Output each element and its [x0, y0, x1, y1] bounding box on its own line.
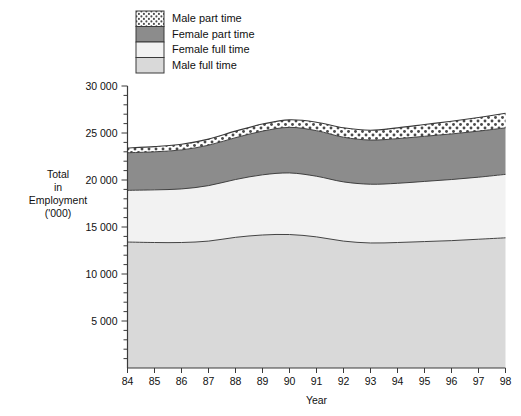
- x-tick-label: 92: [338, 375, 350, 387]
- x-tick-label: 88: [230, 375, 242, 387]
- legend-swatch-female-part-time: [136, 27, 164, 43]
- x-tick-label: 98: [500, 375, 512, 387]
- chart-legend: Male part timeFemale part timeFemale ful…: [136, 11, 255, 73]
- y-axis-title-line: Employment: [29, 194, 87, 206]
- x-tick-label: 84: [122, 375, 134, 387]
- x-tick-label: 96: [446, 375, 458, 387]
- legend-swatch-male-full-time: [136, 58, 164, 74]
- y-axis-title-line: in: [54, 181, 62, 193]
- y-tick-label: 20 000: [85, 174, 117, 186]
- y-tick-label: 5 000: [91, 315, 117, 327]
- stacked-area-chart: 5 00010 00015 00020 00025 00030 000 8485…: [0, 0, 521, 416]
- x-axis: 848586878889909192939495969798: [122, 368, 512, 387]
- legend-label-female-full-time: Female full time: [172, 43, 250, 55]
- x-tick-label: 87: [203, 375, 215, 387]
- x-tick-label: 86: [176, 375, 188, 387]
- legend-label-female-part-time: Female part time: [172, 28, 255, 40]
- chart-container: 5 00010 00015 00020 00025 00030 000 8485…: [0, 0, 521, 416]
- legend-swatch-female-full-time: [136, 42, 164, 58]
- x-tick-label: 91: [311, 375, 323, 387]
- x-axis-title-text: Year: [306, 394, 328, 406]
- x-tick-label: 93: [365, 375, 377, 387]
- x-tick-label: 97: [473, 375, 485, 387]
- area-male-full-time: [128, 234, 506, 368]
- y-tick-label: 25 000: [85, 127, 117, 139]
- y-axis-title-line: Total: [47, 168, 69, 180]
- legend-label-male-full-time: Male full time: [172, 59, 237, 71]
- x-tick-label: 85: [149, 375, 161, 387]
- y-tick-label: 30 000: [85, 80, 117, 92]
- y-axis-title: TotalinEmployment('000): [29, 168, 87, 219]
- x-axis-title: Year: [306, 394, 328, 406]
- legend-swatch-male-part-time: [136, 11, 164, 27]
- y-tick-label: 10 000: [85, 268, 117, 280]
- y-axis: 5 00010 00015 00020 00025 00030 000: [85, 80, 127, 368]
- x-tick-label: 95: [419, 375, 431, 387]
- x-tick-label: 90: [284, 375, 296, 387]
- y-tick-label: 15 000: [85, 221, 117, 233]
- legend-label-male-part-time: Male part time: [172, 12, 242, 24]
- x-tick-label: 94: [392, 375, 404, 387]
- x-tick-label: 89: [257, 375, 269, 387]
- y-axis-title-line: ('000): [45, 207, 72, 219]
